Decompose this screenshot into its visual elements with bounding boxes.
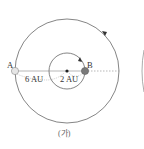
center-dot [65, 69, 68, 72]
label-2au: 2 AU [60, 75, 78, 84]
label-b: B [87, 61, 93, 70]
caption: (가) [58, 130, 70, 138]
label-a: A [7, 61, 13, 70]
label-6au: 6 AU [25, 75, 43, 84]
partial-circle-right [142, 50, 144, 92]
